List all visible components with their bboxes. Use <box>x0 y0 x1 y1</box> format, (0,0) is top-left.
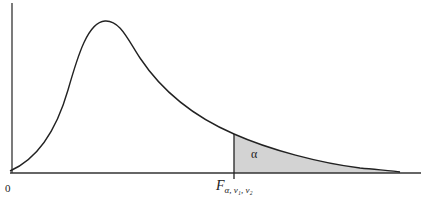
density-curve <box>10 21 400 172</box>
f-distribution-diagram <box>0 0 433 207</box>
origin-label: 0 <box>5 182 11 194</box>
critical-value-label: Fα, ν₁, ν₂ <box>216 178 253 195</box>
shaded-tail-region <box>234 134 400 173</box>
critical-value-subscript: α, ν₁, ν₂ <box>225 185 253 195</box>
critical-value-main: F <box>216 178 225 193</box>
alpha-label: α <box>251 147 257 162</box>
